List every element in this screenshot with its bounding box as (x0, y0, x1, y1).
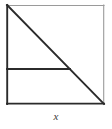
geometry-figure: x (0, 0, 112, 129)
figure-side-label: x (0, 110, 112, 123)
